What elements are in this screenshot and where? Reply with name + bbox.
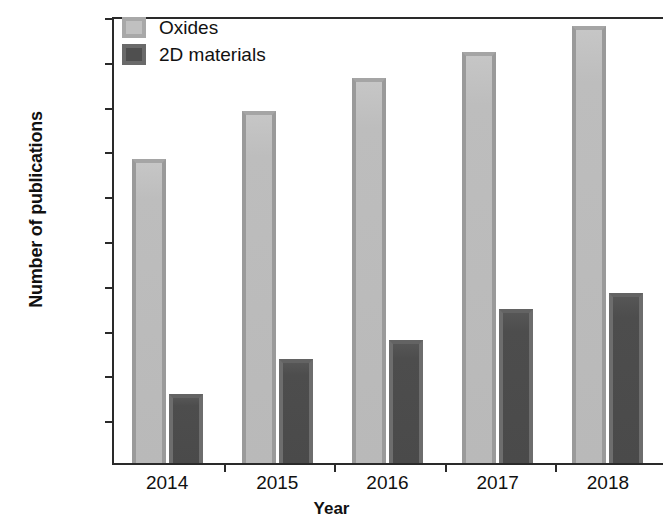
x-axis-tick [334,463,336,472]
y-axis-title: Number of publications [26,70,47,350]
legend-label-oxides: Oxides [159,17,218,39]
legend-item-2d-materials: 2D materials [122,41,352,68]
plot-area [112,17,663,465]
y-axis-tick [105,197,114,199]
bar-2015-2d-materials [279,359,313,463]
x-axis-tick-label: 2016 [328,472,448,494]
bar-2014-2d-materials [169,394,203,463]
bar-2017-2d-materials [499,309,533,463]
bar-2018-2d-materials [609,293,643,463]
y-axis-tick [105,421,114,423]
legend-swatch-icon-oxides [122,17,146,38]
bar-2016-oxides [352,78,386,463]
chart-legend: Oxides 2D materials [122,14,352,68]
y-axis-tick [105,108,114,110]
x-axis-title: Year [0,499,663,519]
bar-2014-oxides [132,159,166,463]
y-axis-tick [105,18,114,20]
bar-chart: Number of publications 1,0002,0003,0004,… [0,0,663,523]
legend-item-oxides: Oxides [122,14,352,41]
x-axis-tick-label: 2018 [548,472,663,494]
x-axis-tick [555,463,557,472]
legend-label-2d-materials: 2D materials [159,44,266,66]
y-axis-tick [105,376,114,378]
bar-2015-oxides [242,111,276,463]
legend-swatch-icon-2d-materials [122,44,146,65]
bar-2016-2d-materials [389,340,423,463]
y-axis-tick [105,152,114,154]
y-axis-tick [105,242,114,244]
y-axis-tick [105,332,114,334]
y-axis-tick [105,63,114,65]
bar-2017-oxides [462,52,496,463]
x-axis-tick-label: 2014 [107,472,227,494]
bar-2018-oxides [572,26,606,463]
x-axis-tick-label: 2017 [438,472,558,494]
x-axis-tick-label: 2015 [217,472,337,494]
y-axis-tick [105,287,114,289]
x-axis-tick [224,463,226,472]
x-axis-tick [445,463,447,472]
